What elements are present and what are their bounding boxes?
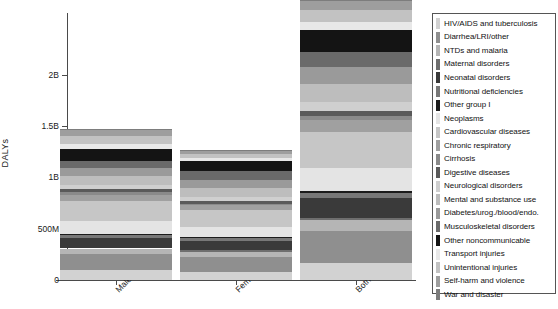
legend-item[interactable]: Maternal disorders xyxy=(433,58,555,72)
legend-swatch-icon xyxy=(436,262,440,273)
legend-item[interactable]: Other group I xyxy=(433,98,555,112)
bar-segment[interactable] xyxy=(180,210,292,227)
bar-segment[interactable] xyxy=(180,257,292,272)
legend-item[interactable]: Diarrhea/LRI/other xyxy=(433,31,555,45)
legend: HIV/AIDS and tuberculosisDiarrhea/LRI/ot… xyxy=(432,13,556,294)
bar-segment[interactable] xyxy=(60,221,172,234)
bar-segment[interactable] xyxy=(300,22,412,30)
bar-female[interactable] xyxy=(180,150,292,280)
bar-segment[interactable] xyxy=(180,238,292,241)
legend-item[interactable]: Cardiovascular diseases xyxy=(433,125,555,139)
bar-segment[interactable] xyxy=(60,270,172,280)
bar-segment[interactable] xyxy=(300,168,412,191)
bar-segment[interactable] xyxy=(180,201,292,203)
bar-segment[interactable] xyxy=(300,116,412,120)
bar-segment[interactable] xyxy=(180,197,292,202)
bar-segment[interactable] xyxy=(60,185,172,189)
legend-item[interactable]: Neonatal disorders xyxy=(433,71,555,85)
legend-item[interactable]: Digestive diseases xyxy=(433,166,555,180)
legend-item[interactable]: Self-harm and violence xyxy=(433,274,555,288)
bar-segment[interactable] xyxy=(180,204,292,205)
bar-segment[interactable] xyxy=(180,241,292,250)
legend-item[interactable]: Musculoskeletal disorders xyxy=(433,220,555,234)
bar-segment[interactable] xyxy=(300,193,412,198)
legend-item[interactable]: HIV/AIDS and tuberculosis xyxy=(433,17,555,31)
bar-segment[interactable] xyxy=(300,191,412,194)
bar-segment[interactable] xyxy=(60,195,172,201)
bar-segment[interactable] xyxy=(60,144,172,150)
bar-segment[interactable] xyxy=(60,192,172,195)
bar-segment[interactable] xyxy=(60,176,172,185)
bar-both[interactable] xyxy=(300,0,412,280)
bar-segment[interactable] xyxy=(300,220,412,230)
legend-item[interactable]: Other noncommunicable xyxy=(433,234,555,248)
bar-segment[interactable] xyxy=(60,161,172,168)
bar-segment[interactable] xyxy=(300,67,412,83)
bar-segment[interactable] xyxy=(300,231,412,263)
legend-label: Cardiovascular diseases xyxy=(444,128,530,136)
legend-item[interactable]: Neoplasms xyxy=(433,112,555,126)
bar-male[interactable] xyxy=(60,129,172,280)
bar-segment[interactable] xyxy=(180,188,292,197)
legend-swatch-icon xyxy=(436,181,440,192)
bar-segment[interactable] xyxy=(300,120,412,131)
bar-segment[interactable] xyxy=(180,252,292,257)
bar-segment[interactable] xyxy=(60,238,172,249)
bar-segment[interactable] xyxy=(300,30,412,52)
bar-segment[interactable] xyxy=(300,0,412,1)
legend-label: Unintentional injuries xyxy=(444,264,517,272)
bar-segment[interactable] xyxy=(60,129,172,130)
legend-swatch-icon xyxy=(436,235,440,246)
bar-segment[interactable] xyxy=(60,130,172,136)
legend-swatch-icon xyxy=(436,113,440,124)
bar-segment[interactable] xyxy=(60,249,172,254)
legend-label: Digestive diseases xyxy=(444,169,510,177)
legend-item[interactable]: Neurological disorders xyxy=(433,180,555,194)
bar-segment[interactable] xyxy=(60,201,172,221)
legend-label: Neoplasms xyxy=(444,115,484,123)
legend-item[interactable]: War and disaster xyxy=(433,288,555,302)
legend-swatch-icon xyxy=(436,208,440,219)
bar-segment[interactable] xyxy=(180,250,292,252)
bar-segment[interactable] xyxy=(180,227,292,236)
bar-segment[interactable] xyxy=(180,171,292,180)
bar-segment[interactable] xyxy=(180,161,292,172)
legend-swatch-icon xyxy=(436,154,440,165)
bar-segment[interactable] xyxy=(300,263,412,280)
bar-segment[interactable] xyxy=(300,132,412,169)
bar-segment[interactable] xyxy=(180,150,292,151)
bar-segment[interactable] xyxy=(300,1,412,9)
bar-segment[interactable] xyxy=(300,102,412,111)
bar-segment[interactable] xyxy=(60,168,172,176)
bar-segment[interactable] xyxy=(60,235,172,237)
bar-segment[interactable] xyxy=(180,272,292,280)
bar-segment[interactable] xyxy=(300,218,412,220)
bar-segment[interactable] xyxy=(60,136,172,143)
bar-segment[interactable] xyxy=(180,151,292,153)
bar-segment[interactable] xyxy=(180,205,292,210)
legend-item[interactable]: Mental and substance use xyxy=(433,193,555,207)
legend-item[interactable]: Unintentional injuries xyxy=(433,261,555,275)
bar-segment[interactable] xyxy=(300,52,412,67)
legend-item[interactable]: Nutritional deficiencies xyxy=(433,85,555,99)
legend-item[interactable]: Cirrhosis xyxy=(433,152,555,166)
legend-label: Neurological disorders xyxy=(444,182,523,190)
legend-item[interactable]: NTDs and malaria xyxy=(433,44,555,58)
legend-label: Nutritional deficiencies xyxy=(444,88,523,96)
bar-segment[interactable] xyxy=(180,237,292,238)
bar-segment[interactable] xyxy=(180,154,292,159)
bar-segment[interactable] xyxy=(180,158,292,160)
bar-segment[interactable] xyxy=(60,234,172,235)
legend-item[interactable]: Chronic respiratory xyxy=(433,139,555,153)
bar-segment[interactable] xyxy=(180,180,292,188)
bar-segment[interactable] xyxy=(60,149,172,160)
bar-segment[interactable] xyxy=(300,198,412,218)
bar-segment[interactable] xyxy=(300,10,412,22)
bar-segment[interactable] xyxy=(60,189,172,192)
bar-segment[interactable] xyxy=(60,254,172,270)
bar-segment[interactable] xyxy=(300,111,412,116)
y-tick-mark xyxy=(62,280,67,281)
legend-item[interactable]: Transport injuries xyxy=(433,247,555,261)
legend-item[interactable]: Diabetes/urog./blood/endo. xyxy=(433,207,555,221)
bar-segment[interactable] xyxy=(300,84,412,102)
